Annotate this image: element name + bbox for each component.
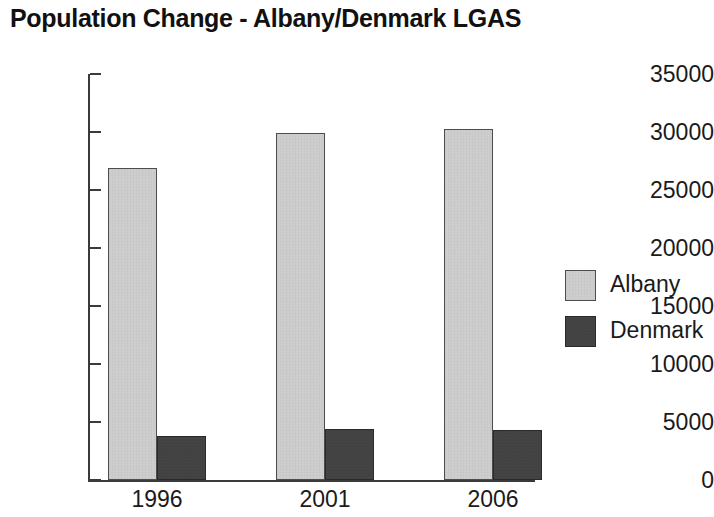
y-axis-tick	[90, 247, 101, 249]
y-axis-tick	[90, 73, 101, 75]
y-axis-tick-label: 10000	[630, 351, 714, 378]
legend-label: Denmark	[610, 317, 703, 344]
y-axis-tick	[90, 421, 101, 423]
y-axis-tick-label: 5000	[630, 409, 714, 436]
y-axis-tick-label: 25000	[630, 177, 714, 204]
y-axis-tick	[90, 131, 101, 133]
y-axis-tick-label: 0	[630, 467, 714, 494]
bar-denmark-1996	[157, 436, 206, 480]
y-axis-tick	[90, 479, 101, 481]
y-axis-tick	[90, 305, 101, 307]
legend-swatch-albany	[565, 270, 596, 301]
population-change-bar-chart: Population Change - Albany/Denmark LGAS …	[0, 0, 714, 517]
bar-denmark-2006	[493, 430, 542, 480]
bar-denmark-2001	[325, 429, 374, 480]
chart-title: Population Change - Albany/Denmark LGAS	[10, 4, 521, 33]
y-axis-tick-label: 20000	[630, 235, 714, 262]
x-axis-tick-label: 2006	[423, 486, 563, 513]
x-axis-line	[88, 480, 535, 482]
x-axis-tick-label: 2001	[255, 486, 395, 513]
y-axis-tick	[90, 189, 101, 191]
bar-albany-2006	[444, 129, 493, 480]
legend-label: Albany	[610, 271, 680, 298]
bar-albany-2001	[276, 133, 325, 480]
legend-swatch-denmark	[565, 316, 596, 347]
x-axis-tick-label: 1996	[87, 486, 227, 513]
y-axis-tick-label: 35000	[630, 61, 714, 88]
y-axis-tick-label: 30000	[630, 119, 714, 146]
y-axis-tick	[90, 363, 101, 365]
bar-albany-1996	[108, 168, 157, 480]
